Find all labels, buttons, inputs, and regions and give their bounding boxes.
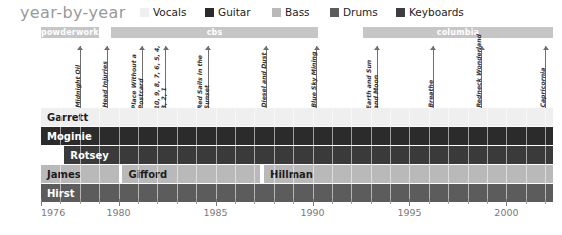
axis-tick: [216, 199, 217, 206]
album-marker[interactable]: Redneck Wonderland: [481, 46, 482, 108]
album-arrow-icon: [314, 46, 320, 50]
album-title: 10, 9, 8, 7, 6, 5, 4,3, 2, 1: [154, 45, 167, 109]
legend-label: Bass: [285, 6, 310, 18]
record-label-cbs[interactable]: cbs: [111, 27, 319, 38]
legend-item-drums[interactable]: Drums: [330, 6, 378, 18]
album-arrow-icon: [430, 46, 436, 50]
album-title-line: Blue Sky Mining: [312, 52, 319, 108]
album-title-line: Postcard: [137, 54, 144, 109]
axis-tick: [99, 199, 100, 204]
timeline-row-guitar: Moginie: [0, 127, 562, 145]
axis-tick: [545, 199, 546, 204]
album-arrow-icon: [205, 46, 211, 50]
axis-label: 1995: [397, 207, 421, 218]
gridline: [119, 165, 120, 183]
axis-tick: [60, 199, 61, 204]
record-label-columbia[interactable]: columbia: [363, 27, 553, 38]
axis-tick: [274, 199, 275, 204]
axis-tick: [390, 199, 391, 204]
legend-item-keyboards[interactable]: Keyboards: [396, 6, 464, 18]
album-title: Head Injuries: [102, 62, 109, 108]
member-name: Garrett: [47, 112, 88, 123]
axis-tick: [254, 199, 255, 204]
legend-label: Keyboards: [409, 6, 464, 18]
album-marker[interactable]: Place Without aPostcard: [142, 46, 143, 108]
record-label-text: columbia: [363, 27, 553, 38]
axis-label: 1980: [106, 207, 130, 218]
member-segment-hillman[interactable]: Hillman: [264, 165, 553, 183]
legend-swatch-icon: [330, 8, 339, 17]
axis-tick: [157, 199, 158, 204]
legend-swatch-icon: [205, 8, 214, 17]
timeline-row-vocals: Garrett: [0, 108, 562, 126]
album-arrow-icon: [104, 46, 110, 50]
axis-tick: [41, 199, 42, 206]
album-title-line: Sunset: [203, 55, 210, 109]
album-marker[interactable]: Diesel and Dust: [266, 46, 267, 108]
year-by-year-chart: year-by-year VocalsGuitarBassDrumsKeyboa…: [0, 0, 562, 235]
axis-tick: [409, 199, 410, 206]
axis-label: 2000: [494, 207, 518, 218]
album-marker[interactable]: 10, 9, 8, 7, 6, 5, 4,3, 2, 1: [165, 46, 166, 108]
album-title-line: Capricornia: [541, 68, 548, 108]
album-title: Breathe: [428, 80, 435, 108]
album-title: Midnight Oil: [75, 65, 82, 108]
axis-tick: [371, 199, 372, 204]
album-arrow-icon: [139, 46, 145, 50]
axis-tick: [235, 199, 236, 204]
album-title-line: Head Injuries: [102, 62, 109, 108]
member-segment-garrett[interactable]: Garrett: [41, 108, 553, 126]
legend-swatch-icon: [272, 8, 281, 17]
gridline: [60, 146, 61, 164]
member-segment-moginie[interactable]: Moginie: [41, 127, 553, 145]
member-timeline-rows: GarrettMoginieRotseyJamesGiffordHillmanH…: [0, 108, 562, 199]
album-marker[interactable]: Red Sails in theSunset: [208, 46, 209, 108]
legend-swatch-icon: [396, 8, 405, 17]
axis-tick: [138, 199, 139, 204]
axis-label: 1976: [41, 207, 65, 218]
legend-item-guitar[interactable]: Guitar: [205, 6, 251, 18]
member-segment-gifford[interactable]: Gifford: [122, 165, 260, 183]
axis-tick: [448, 199, 449, 204]
legend-item-vocals[interactable]: Vocals: [140, 6, 186, 18]
album-marker[interactable]: Head Injuries: [107, 46, 108, 108]
record-label-powderworks[interactable]: powderworks: [41, 27, 99, 38]
axis-tick: [487, 199, 488, 204]
album-title-line: Breathe: [428, 80, 435, 108]
axis-tick: [293, 199, 294, 204]
album-arrow-icon: [77, 46, 83, 50]
album-marker[interactable]: Breathe: [433, 46, 434, 108]
axis-tick: [80, 199, 81, 204]
axis-tick: [119, 199, 120, 206]
album-title-line: and Moon: [372, 60, 379, 109]
axis-tick: [332, 199, 333, 204]
member-name: James: [47, 169, 81, 180]
legend-item-bass[interactable]: Bass: [272, 6, 310, 18]
album-title: Diesel and Dust: [261, 53, 268, 108]
album-arrow-icon: [263, 46, 269, 50]
axis-tick: [429, 199, 430, 204]
member-name: Rotsey: [70, 150, 109, 161]
axis-tick: [526, 199, 527, 204]
album-markers: Midnight OilHead InjuriesPlace Without a…: [0, 40, 562, 108]
member-name: Hillman: [270, 169, 313, 180]
member-segment-rotsey[interactable]: Rotsey: [64, 146, 553, 164]
member-segment-james[interactable]: James: [41, 165, 119, 183]
axis-tick: [506, 199, 507, 206]
chart-header: year-by-year VocalsGuitarBassDrumsKeyboa…: [0, 0, 562, 26]
album-marker[interactable]: Midnight Oil: [80, 46, 81, 108]
axis-label: 1985: [203, 207, 227, 218]
axis-tick: [196, 199, 197, 204]
axis-tick: [468, 199, 469, 204]
album-marker[interactable]: Blue Sky Mining: [316, 46, 317, 108]
axis-label: 1990: [300, 207, 324, 218]
album-arrow-icon: [374, 46, 380, 50]
album-title: Capricornia: [541, 68, 548, 108]
album-title-line: Diesel and Dust: [261, 53, 268, 108]
member-name: Gifford: [128, 169, 167, 180]
album-marker[interactable]: Capricornia: [545, 46, 546, 108]
album-title-line: Midnight Oil: [75, 65, 82, 108]
member-name: Moginie: [47, 131, 92, 142]
album-title: Redneck Wonderland: [477, 34, 484, 108]
album-marker[interactable]: Earth and Sunand Moon: [377, 46, 378, 108]
